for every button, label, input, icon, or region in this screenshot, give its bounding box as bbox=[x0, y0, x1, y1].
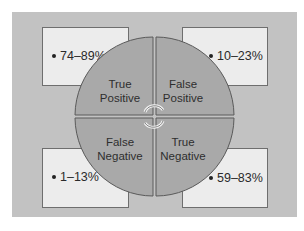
label-line2: Positive bbox=[153, 91, 213, 105]
label-line1: True bbox=[90, 77, 150, 91]
circular-arrows-icon bbox=[145, 106, 163, 127]
label-line1: False bbox=[90, 135, 150, 149]
label-true-negative: True Negative bbox=[153, 135, 213, 163]
label-true-positive: True Positive bbox=[90, 77, 150, 105]
label-false-negative: False Negative bbox=[90, 135, 150, 163]
label-line1: False bbox=[153, 77, 213, 91]
label-line2: Negative bbox=[90, 149, 150, 163]
confusion-matrix-circle bbox=[0, 0, 304, 231]
label-line2: Negative bbox=[153, 149, 213, 163]
label-false-positive: False Positive bbox=[153, 77, 213, 105]
label-line1: True bbox=[153, 135, 213, 149]
label-line2: Positive bbox=[90, 91, 150, 105]
